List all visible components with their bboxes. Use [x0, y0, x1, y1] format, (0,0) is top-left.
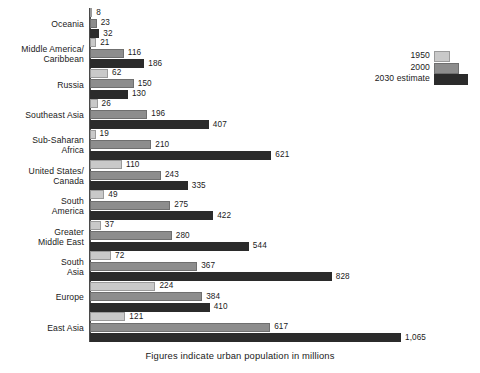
- bar-2000[interactable]: [90, 231, 172, 240]
- bar-row[interactable]: 23: [90, 19, 480, 28]
- bar-value-label: 130: [132, 89, 146, 99]
- legend-swatch-column: [434, 51, 468, 86]
- bar-2030-estimate[interactable]: [90, 211, 213, 220]
- bar-2030-estimate[interactable]: [90, 29, 99, 38]
- bar-value-label: 422: [217, 211, 231, 221]
- bar-1950[interactable]: [90, 190, 104, 199]
- bar-group: GreaterMiddle East37280544: [0, 221, 480, 251]
- bar-2000[interactable]: [90, 19, 97, 28]
- bar-row[interactable]: 1,065: [90, 333, 480, 342]
- bar-value-label: 196: [151, 109, 165, 119]
- bar-value-label: 828: [336, 272, 350, 282]
- bar-row[interactable]: 8: [90, 8, 480, 17]
- bar-row[interactable]: 72: [90, 251, 480, 260]
- bar-2000[interactable]: [90, 171, 161, 180]
- bar-row[interactable]: 407: [90, 120, 480, 129]
- bar-row[interactable]: 243: [90, 171, 480, 180]
- bar-row[interactable]: 621: [90, 151, 480, 160]
- bar-value-label: 49: [108, 190, 117, 200]
- bar-row[interactable]: 21: [90, 38, 480, 47]
- bar-1950[interactable]: [90, 282, 155, 291]
- bar-2030-estimate[interactable]: [90, 303, 210, 312]
- bar-stack: 82332: [90, 8, 480, 38]
- bar-value-label: 23: [101, 18, 110, 28]
- bar-row[interactable]: 121: [90, 312, 480, 321]
- bar-row[interactable]: 224: [90, 282, 480, 291]
- bar-2030-estimate[interactable]: [90, 181, 188, 190]
- bar-group: Europe224384410: [0, 282, 480, 312]
- legend-swatch: [434, 51, 450, 62]
- bar-row[interactable]: 422: [90, 211, 480, 220]
- bar-2000[interactable]: [90, 323, 270, 332]
- bar-row[interactable]: 617: [90, 323, 480, 332]
- bar-value-label: 621: [275, 150, 289, 160]
- bar-2030-estimate[interactable]: [90, 333, 401, 342]
- bar-1950[interactable]: [90, 130, 96, 139]
- bar-row[interactable]: 335: [90, 181, 480, 190]
- bar-row[interactable]: 280: [90, 231, 480, 240]
- bar-2000[interactable]: [90, 79, 134, 88]
- bar-2030-estimate[interactable]: [90, 90, 128, 99]
- bar-2000[interactable]: [90, 292, 202, 301]
- bar-1950[interactable]: [90, 8, 92, 17]
- urban-population-bar-chart: Oceania82332Middle America/Caribbean2111…: [0, 0, 480, 373]
- bar-value-label: 617: [274, 322, 288, 332]
- bar-stack: 49275422: [90, 190, 480, 220]
- bar-2000[interactable]: [90, 201, 170, 210]
- bar-1950[interactable]: [90, 221, 101, 230]
- category-label: United States/Canada: [0, 166, 84, 186]
- bar-row[interactable]: 544: [90, 242, 480, 251]
- bar-row[interactable]: 26: [90, 99, 480, 108]
- bar-row[interactable]: 19: [90, 130, 480, 139]
- bar-1950[interactable]: [90, 312, 125, 321]
- bar-value-label: 8: [96, 8, 101, 18]
- bar-1950[interactable]: [90, 69, 108, 78]
- bar-stack: 72367828: [90, 251, 480, 281]
- bar-group: East Asia1216171,065: [0, 312, 480, 342]
- category-label: Europe: [0, 292, 84, 302]
- bar-value-label: 410: [214, 302, 228, 312]
- bar-value-label: 62: [112, 68, 121, 78]
- bar-2000[interactable]: [90, 49, 124, 58]
- bar-1950[interactable]: [90, 251, 111, 260]
- legend-label: 1950: [352, 50, 430, 62]
- bar-row[interactable]: 367: [90, 262, 480, 271]
- bar-2030-estimate[interactable]: [90, 120, 209, 129]
- bar-value-label: 407: [213, 120, 227, 130]
- bar-2030-estimate[interactable]: [90, 242, 249, 251]
- bar-2000[interactable]: [90, 140, 151, 149]
- bar-value-label: 186: [148, 59, 162, 69]
- legend-label: 2030 estimate: [352, 73, 430, 85]
- bar-2030-estimate[interactable]: [90, 272, 332, 281]
- bar-value-label: 243: [165, 170, 179, 180]
- bar-1950[interactable]: [90, 160, 122, 169]
- bar-group: United States/Canada110243335: [0, 160, 480, 190]
- bar-value-label: 21: [100, 38, 109, 48]
- bar-stack: 19210621: [90, 130, 480, 160]
- chart-caption: Figures indicate urban population in mil…: [0, 350, 480, 361]
- bar-1950[interactable]: [90, 99, 98, 108]
- bar-row[interactable]: 384: [90, 292, 480, 301]
- bar-row[interactable]: 828: [90, 272, 480, 281]
- bar-stack: 110243335: [90, 160, 480, 190]
- bar-row[interactable]: 196: [90, 110, 480, 119]
- bar-row[interactable]: 410: [90, 303, 480, 312]
- bar-row[interactable]: 110: [90, 160, 480, 169]
- bar-stack: 37280544: [90, 221, 480, 251]
- bar-2000[interactable]: [90, 262, 197, 271]
- bar-row[interactable]: 49: [90, 190, 480, 199]
- category-label: Russia: [0, 80, 84, 90]
- bar-1950[interactable]: [90, 38, 96, 47]
- legend-label: 2000: [352, 62, 430, 74]
- bar-2030-estimate[interactable]: [90, 59, 144, 68]
- category-label: GreaterMiddle East: [0, 227, 84, 247]
- bar-value-label: 121: [129, 312, 143, 322]
- bar-2030-estimate[interactable]: [90, 151, 271, 160]
- bar-row[interactable]: 37: [90, 221, 480, 230]
- bar-value-label: 224: [159, 281, 173, 291]
- bar-2000[interactable]: [90, 110, 147, 119]
- bar-row[interactable]: 275: [90, 201, 480, 210]
- bar-value-label: 544: [253, 241, 267, 251]
- bar-row[interactable]: 32: [90, 29, 480, 38]
- bar-row[interactable]: 210: [90, 140, 480, 149]
